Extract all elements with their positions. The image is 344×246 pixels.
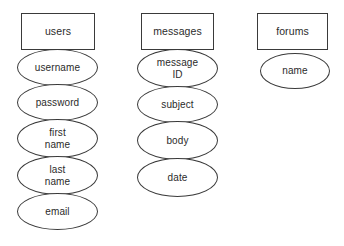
attribute-label: password: [32, 97, 84, 109]
attribute-ellipse-messages-body: body: [137, 121, 218, 160]
attribute-ellipse-users-email: email: [17, 193, 98, 230]
attribute-ellipse-messages-message-id: message ID: [137, 49, 218, 88]
attribute-ellipse-messages-subject: subject: [137, 86, 218, 123]
attribute-label: email: [41, 206, 73, 218]
attribute-ellipse-messages-date: date: [137, 158, 218, 197]
entity-name-label: messages: [153, 26, 202, 38]
entity-box-forums: forums: [257, 13, 328, 50]
attribute-ellipse-users-last-name: last name: [17, 156, 98, 195]
entity-box-users: users: [21, 13, 95, 50]
entity-name-label: forums: [276, 26, 309, 38]
attribute-label: name: [278, 65, 311, 77]
attribute-ellipse-forums-name: name: [260, 53, 330, 89]
entity-box-messages: messages: [141, 13, 214, 50]
attribute-ellipse-users-username: username: [17, 49, 98, 86]
attribute-ellipse-users-first-name: first name: [17, 119, 98, 158]
attribute-ellipse-users-password: password: [17, 84, 98, 121]
attribute-label: message ID: [153, 57, 202, 80]
attribute-label: username: [31, 62, 84, 74]
entity-name-label: users: [45, 26, 71, 38]
attribute-label: body: [162, 135, 192, 147]
attribute-label: subject: [157, 99, 197, 111]
attribute-label: last name: [41, 164, 74, 187]
er-diagram-canvas: usernamepasswordfirst namelast nameemail…: [0, 0, 344, 246]
attribute-label: first name: [41, 127, 74, 150]
attribute-label: date: [164, 172, 192, 184]
